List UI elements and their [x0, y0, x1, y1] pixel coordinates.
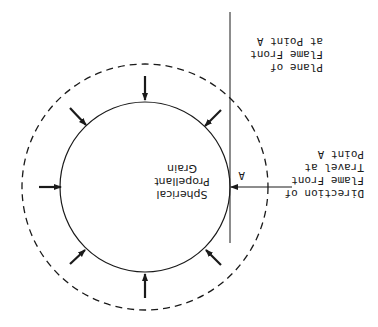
svg-text:Travel at: Travel at [304, 161, 364, 174]
arrow-bottom-right [206, 250, 221, 265]
point-a-label: A [238, 169, 245, 182]
svg-text:Grain: Grain [167, 162, 197, 175]
grain-label: Spherical Propellant Grain [154, 162, 210, 201]
arrow-top-left [70, 108, 86, 125]
svg-text:Plane of: Plane of [270, 61, 323, 74]
svg-text:Flame Front: Flame Front [250, 48, 323, 61]
svg-text:Point A: Point A [317, 148, 364, 161]
direction-label: Direction of Flame Front Travel at Point… [285, 148, 364, 200]
svg-text:Flame Front: Flame Front [291, 174, 364, 187]
svg-text:Spherical: Spherical [156, 188, 207, 201]
plane-label: Plane of Flame Front at Point A [250, 35, 323, 74]
arrow-top-right [205, 110, 221, 126]
svg-text:Propellant: Propellant [154, 175, 210, 188]
arrow-bottom-left [70, 250, 85, 264]
svg-text:Direction of: Direction of [285, 187, 364, 200]
svg-text:at Point A: at Point A [256, 35, 323, 48]
diagram-canvas: Spherical Propellant Grain A Direction o… [0, 0, 378, 327]
